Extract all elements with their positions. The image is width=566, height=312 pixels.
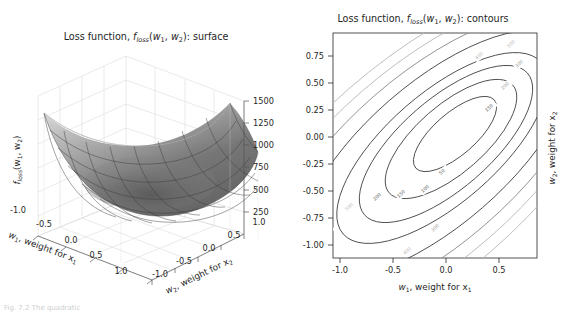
x3d-tick--1.0: -1.0	[10, 205, 26, 215]
y-tick-0.00: 0.00	[306, 132, 324, 142]
x3d-tick-0.5: 0.5	[89, 250, 102, 260]
y-tick-0.50: 0.50	[306, 78, 324, 88]
contour-y-axis-label: w2, weight for x2	[547, 111, 558, 184]
y3d-tick-0.5: 0.5	[227, 230, 240, 240]
panel-surface-plot: Loss function, floss(w1, w2): surface	[0, 0, 283, 312]
y3d-tick--1.0: -1.0	[152, 269, 168, 279]
x-tick--0.5: -0.5	[385, 265, 401, 275]
contour-level-50	[402, 84, 508, 184]
z-tick-500: 500	[253, 185, 269, 195]
contour-svg: Loss function, floss(w1, w2): contours	[283, 0, 566, 312]
x-tick--1.0: -1.0	[332, 265, 348, 275]
contour-title: Loss function, floss(w1, w2): contours	[337, 13, 508, 26]
contour-level-200	[307, 21, 566, 276]
y-tick-0.75: 0.75	[306, 51, 324, 61]
figure-root: Loss function, floss(w1, w2): surface	[0, 0, 566, 312]
surface-svg: Loss function, floss(w1, w2): surface	[0, 0, 283, 312]
y3d-tick-0.0: 0.0	[202, 243, 215, 253]
x3d-tick-1.0: 1.0	[114, 266, 127, 276]
z-tick-750: 750	[253, 162, 269, 172]
y-tick--0.25: -0.25	[303, 159, 324, 169]
y-tick--1.00: -1.00	[303, 240, 324, 250]
contour-y-axis: 0.75 0.50 0.25 0.00 -0.25 -0.50 -0.75 -1…	[303, 51, 333, 250]
y3d-tick-1.0: 1.0	[252, 217, 265, 227]
x-tick-0.0: 0.0	[439, 265, 452, 275]
figure-caption-partial: Fig. 7.2 The quadratic	[4, 304, 80, 312]
z-tick-1500: 1500	[253, 96, 274, 106]
y-tick--0.50: -0.50	[303, 186, 324, 196]
contour-x-axis-label: w1, weight for x1	[399, 282, 472, 293]
z-axis-label: floss(w1, w2)	[12, 135, 23, 184]
y-tick-0.25: 0.25	[306, 105, 324, 115]
contour-label-knockouts	[320, 36, 528, 257]
z-tick-250: 250	[253, 207, 269, 217]
x-tick-0.5: 0.5	[492, 265, 505, 275]
contour-x-axis: -1.0 -0.5 0.0 0.5	[332, 258, 506, 275]
contour-label-600-lower: 600	[321, 227, 331, 237]
z-tick-1000: 1000	[253, 140, 274, 150]
y3d-tick--0.5: -0.5	[176, 256, 192, 266]
x3d-tick-0.0: 0.0	[64, 235, 77, 245]
z-tick-1250: 1250	[253, 118, 274, 128]
panel-contour-plot: Loss function, floss(w1, w2): contours	[283, 0, 566, 312]
y-tick--0.75: -0.75	[303, 213, 324, 223]
x3d-tick--0.5: -0.5	[36, 219, 52, 229]
contour-level-150	[335, 39, 557, 249]
surface-title: Loss function, floss(w1, w2): surface	[64, 31, 229, 44]
